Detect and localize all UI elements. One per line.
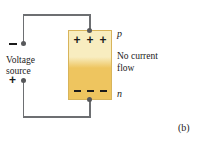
wire-top-left-vertical xyxy=(23,14,25,43)
n-region-label: n xyxy=(117,88,122,99)
wire-top-horizontal xyxy=(23,14,91,16)
node-block-top xyxy=(87,28,92,33)
junction-gradient xyxy=(69,57,111,68)
wire-bottom-left-vertical xyxy=(23,80,25,117)
no-current-flow-label-line1: No current xyxy=(117,51,158,62)
charge-minus-3 xyxy=(100,90,107,92)
charge-plus-3: + xyxy=(100,34,107,46)
voltage-source-label-line2: source xyxy=(6,66,31,77)
wire-bottom-horizontal xyxy=(23,116,91,118)
diode-reverse-bias-figure: + + + + Voltage source p n No current fl… xyxy=(0,0,206,142)
node-source-positive xyxy=(21,78,26,83)
charge-plus-1: + xyxy=(73,34,80,46)
source-negative-sign xyxy=(9,43,17,45)
node-block-bottom xyxy=(87,97,92,102)
p-region-charges: + + + xyxy=(69,34,111,46)
node-source-negative xyxy=(21,41,26,46)
no-current-flow-label-line2: flow xyxy=(117,63,134,74)
n-region-charges xyxy=(69,90,111,94)
semiconductor-block: + + + xyxy=(68,30,112,100)
charge-minus-2 xyxy=(87,90,94,92)
p-region-label: p xyxy=(117,28,122,39)
charge-plus-2: + xyxy=(86,34,93,46)
charge-minus-1 xyxy=(74,90,81,92)
figure-caption: (b) xyxy=(178,122,190,133)
voltage-source-label-line1: Voltage xyxy=(6,55,35,66)
